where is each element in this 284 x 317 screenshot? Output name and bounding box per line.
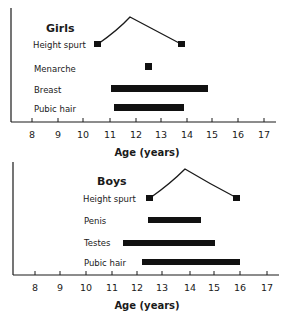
girls-height-spurt-start-marker bbox=[94, 41, 101, 47]
girls-breast-bar bbox=[111, 85, 208, 92]
boys-row-label: Testes bbox=[83, 238, 111, 248]
boys-x-axis-label: Age (years) bbox=[114, 300, 179, 311]
boys-tick-label: 13 bbox=[156, 282, 168, 293]
girls-tick-label: 16 bbox=[232, 129, 244, 140]
girls-row-label: Menarche bbox=[34, 64, 76, 74]
boys-chart: 8 9 10 11 12 13 14 15 16 17 Age (years) … bbox=[13, 162, 279, 311]
puberty-timeline-figure: 8 9 10 11 12 13 14 15 16 17 Age (years) … bbox=[0, 0, 284, 317]
boys-tick-label: 9 bbox=[57, 282, 63, 293]
boys-row-label: Penis bbox=[84, 216, 107, 226]
girls-tick-label: 15 bbox=[206, 129, 218, 140]
girls-height-spurt-curve bbox=[98, 17, 181, 44]
boys-height-spurt-curve bbox=[150, 169, 237, 198]
boys-height-spurt-start-marker bbox=[146, 195, 153, 201]
boys-row-label: Pubic hair bbox=[84, 258, 126, 268]
girls-row-label: Breast bbox=[34, 85, 62, 95]
girls-row-label: Pubic hair bbox=[34, 104, 76, 114]
boys-tick-label: 17 bbox=[261, 282, 273, 293]
girls-pubic-hair-bar bbox=[114, 104, 184, 111]
girls-tick-label: 13 bbox=[155, 129, 167, 140]
girls-title: Girls bbox=[46, 22, 75, 35]
boys-tick-label: 16 bbox=[234, 282, 246, 293]
boys-title: Boys bbox=[97, 175, 127, 188]
boys-tick-label: 12 bbox=[131, 282, 143, 293]
boys-pubic-hair-bar bbox=[142, 259, 240, 265]
boys-penis-bar bbox=[148, 217, 201, 223]
boys-tick-label: 11 bbox=[106, 282, 118, 293]
girls-height-spurt-end-marker bbox=[178, 41, 185, 47]
girls-chart: 8 9 10 11 12 13 14 15 16 17 Age (years) … bbox=[11, 8, 276, 158]
girls-tick-label: 17 bbox=[258, 129, 270, 140]
boys-testes-bar bbox=[123, 240, 215, 246]
boys-row-label: Height spurt bbox=[83, 194, 137, 204]
girls-tick-label: 14 bbox=[181, 129, 193, 140]
boys-tick-label: 15 bbox=[208, 282, 220, 293]
girls-row-label: Height spurt bbox=[33, 40, 87, 50]
girls-tick-label: 9 bbox=[55, 129, 61, 140]
girls-tick-label: 12 bbox=[130, 129, 142, 140]
boys-tick-label: 14 bbox=[184, 282, 196, 293]
boys-height-spurt-end-marker bbox=[233, 195, 240, 201]
boys-tick-label: 10 bbox=[80, 282, 92, 293]
girls-x-axis-label: Age (years) bbox=[114, 147, 179, 158]
girls-tick-label: 8 bbox=[29, 129, 35, 140]
girls-tick-label: 11 bbox=[104, 129, 116, 140]
boys-tick-label: 8 bbox=[32, 282, 38, 293]
girls-tick-label: 10 bbox=[77, 129, 89, 140]
girls-menarche-marker bbox=[145, 63, 152, 70]
